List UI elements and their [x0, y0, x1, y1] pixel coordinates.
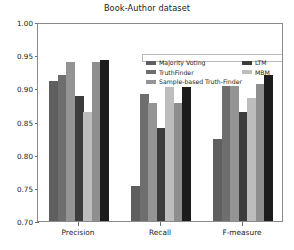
legend-swatch-icon — [146, 70, 156, 74]
bar — [264, 75, 273, 221]
legend-item: Majority Voting — [146, 58, 240, 67]
x-axis-tick-label: Precision — [62, 228, 95, 237]
legend-swatch-icon — [146, 80, 156, 84]
y-axis-tick-label: 0.95 — [5, 52, 33, 61]
legend-swatch-icon — [242, 61, 252, 65]
y-axis-tick-label: 0.85 — [5, 118, 33, 127]
legend-item-label: Majority Voting — [159, 59, 205, 66]
y-axis-tick-label: 0.70 — [5, 218, 33, 227]
plot-area: Majority VotingTruthFinderSample-based T… — [37, 23, 283, 222]
x-axis-tick-mark — [78, 222, 79, 226]
legend-item-label: TruthFinder — [159, 69, 194, 76]
legend-item: LTM — [242, 58, 283, 67]
y-axis-tick-labels: 0.700.750.800.850.900.951.00 — [2, 0, 33, 250]
chart-legend: Majority VotingTruthFinderSample-based T… — [142, 54, 283, 62]
y-axis-tick-mark — [35, 222, 39, 223]
legend-item-label: Sample-based Truth-Finder — [159, 78, 242, 85]
legend-item-label: LTM — [255, 59, 267, 66]
y-axis-tick-label: 0.75 — [5, 184, 33, 193]
chart-figure: Book-Author dataset 0.700.750.800.850.90… — [0, 0, 294, 250]
bar — [182, 87, 191, 221]
y-axis-tick-label: 0.80 — [5, 151, 33, 160]
legend-item-label: MBM — [255, 69, 270, 76]
chart-title: Book-Author dataset — [0, 3, 294, 13]
legend-item: MBM — [242, 68, 283, 77]
x-axis-tick-label: Recall — [149, 228, 171, 237]
x-axis-tick-mark — [160, 222, 161, 226]
bar — [100, 60, 109, 221]
y-axis-tick-label: 1.00 — [5, 19, 33, 28]
legend-item: TruthFinder — [146, 68, 240, 77]
x-axis-tick-mark — [242, 222, 243, 226]
y-axis-tick-label: 0.90 — [5, 85, 33, 94]
legend-column-left: Majority VotingTruthFinderSample-based T… — [146, 58, 240, 87]
legend-item: Sample-based Truth-Finder — [146, 77, 240, 86]
legend-swatch-icon — [242, 70, 252, 74]
legend-swatch-icon — [146, 61, 156, 65]
x-axis-tick-label: F-measure — [222, 228, 261, 237]
legend-column-middle: LTMMBM — [242, 58, 283, 77]
